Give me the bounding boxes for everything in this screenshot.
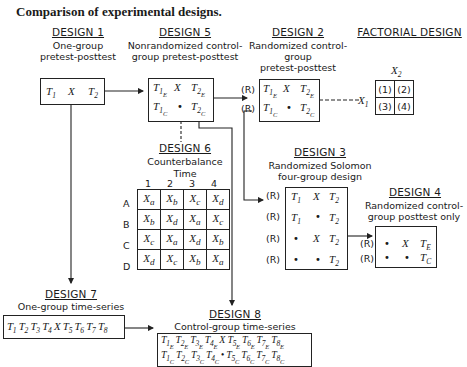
design-2-no-treatment: • [286, 102, 292, 113]
design-5-desc-2: group pretest-posttest [120, 51, 250, 62]
factorial-x1-label: X1 [358, 94, 368, 109]
design-2-desc-1: Randomized control- [245, 40, 351, 51]
design-5-heading: DESIGN 5 [155, 26, 215, 38]
design-3-posttest: T2 [329, 190, 339, 205]
design-2-treatment: X [283, 82, 290, 94]
design-3-random-label: (R) [266, 254, 280, 265]
design-3-desc-2: four-group design [262, 171, 378, 182]
cb-cell: Xb [184, 250, 207, 270]
design-6-col-4: 4 [203, 178, 225, 189]
design-3-no-pretest: • [293, 254, 299, 265]
cb-cell: Xc [184, 190, 207, 210]
design-7-sequence: T1 T2 T3 T4 X T5 T6 T7 T8 [7, 320, 107, 335]
design-4-no-pretest: • [384, 238, 390, 249]
design-6-row-b: B [123, 219, 130, 230]
factorial-grid: (1)(2) (3)(4) [375, 80, 414, 115]
factorial-cell: (3) [376, 98, 395, 115]
design-3-treatment: X [313, 190, 320, 202]
design-1-treatment: X [68, 85, 75, 97]
design-8-control-row: T1C T2C T3C T4C • T5C T6C T7C T8C [161, 349, 284, 365]
factorial-cell: (4) [395, 98, 414, 115]
design-7-box: T1 T2 T3 T4 X T5 T6 T7 T8 [3, 315, 125, 339]
cb-cell: Xa [207, 250, 230, 270]
cb-cell: Xd [207, 190, 230, 210]
design-5-t1e: T1E [153, 81, 167, 98]
design-6-col-3: 3 [181, 178, 203, 189]
design-6-row-d: D [123, 261, 130, 272]
design-2-desc-2: group [245, 51, 351, 62]
design-3-random-label: (R) [266, 211, 280, 222]
cb-cell: Xb [161, 190, 184, 210]
factorial-heading: FACTORIAL DESIGN [352, 26, 467, 38]
design-2-desc-3: pretest-posttest [245, 62, 351, 73]
design-4-no-pretest: • [384, 252, 390, 263]
design-8-box: T1E T2E T3E T4E X T5E T6E T7E T8E T1C T2… [157, 333, 312, 367]
cb-cell: Xd [138, 250, 161, 270]
design-8-experimental-row: T1E T2E T3E T4E X T5E T6E T7E T8E [161, 334, 284, 350]
design-4-random-label: (R) [360, 238, 374, 249]
design-4-no-treatment: • [404, 252, 410, 263]
design-2-t2e: T2E [300, 82, 314, 99]
cb-cell: Xc [207, 210, 230, 230]
design-4-heading: DESIGN 4 [385, 186, 445, 198]
cb-cell: Xb [138, 210, 161, 230]
design-2-t1c: T1C [263, 101, 277, 118]
design-7-heading: DESIGN 7 [41, 288, 101, 300]
design-2-box: T1E X T2E T1C • T2C [259, 79, 320, 122]
cb-cell: Xd [184, 230, 207, 250]
design-3-posttest: T2 [329, 232, 339, 247]
design-1-heading: DESIGN 1 [48, 26, 108, 38]
design-6-heading: DESIGN 6 [155, 142, 215, 154]
design-1-desc-2: pretest-posttest [28, 51, 128, 62]
design-3-pretest: T1 [291, 190, 301, 205]
design-8-desc: Control-group time-series [165, 321, 305, 332]
factorial-cell: (2) [395, 81, 414, 98]
design-8-heading: DESIGN 8 [205, 308, 265, 320]
factorial-x2-label: X2 [391, 64, 401, 79]
design-6-col-1: 1 [137, 178, 159, 189]
design-3-heading: DESIGN 3 [290, 146, 350, 158]
design-4-desc-2: group posttest only [358, 211, 467, 222]
design-2-random-label: (R) [241, 103, 255, 114]
design-5-desc-1: Nonrandomized control- [120, 40, 250, 51]
design-5-t2c: T2C [191, 100, 205, 117]
design-3-no-treatment: • [315, 254, 321, 265]
cb-cell: Xb [207, 230, 230, 250]
design-4-tc: TC [420, 251, 431, 266]
design-6-row-c: C [123, 240, 130, 251]
design-1-desc-1: One-group [28, 40, 128, 51]
factorial-cell: (1) [376, 81, 395, 98]
design-6-col-2: 2 [159, 178, 181, 189]
design-3-no-pretest: • [293, 233, 299, 244]
design-3-random-label: (R) [266, 233, 280, 244]
design-3-desc-1: Randomized Solomon [262, 160, 378, 171]
design-4-treatment: X [402, 237, 409, 249]
design-6-row-a: A [123, 198, 130, 209]
design-3-random-label: (R) [266, 190, 280, 201]
design-4-te: TE [420, 237, 431, 252]
cb-cell: Xd [161, 210, 184, 230]
cb-cell: Xc [161, 250, 184, 270]
design-2-t2c: T2C [300, 101, 314, 118]
design-6-desc: Counterbalance [130, 156, 240, 167]
design-5-t2e: T2E [191, 81, 205, 98]
design-3-pretest: T1 [291, 211, 301, 226]
design-5-t1c: T1C [153, 100, 167, 117]
design-5-treatment: X [174, 81, 181, 93]
design-5-no-treatment: • [177, 101, 183, 112]
design-3-posttest: T2 [329, 253, 339, 268]
design-4-box: • X TE • • TC [375, 226, 437, 268]
design-7-desc: One-group time-series [8, 301, 134, 312]
design-3-no-treatment: • [315, 211, 321, 222]
design-3-treatment: X [313, 232, 320, 244]
cb-cell: Xa [161, 230, 184, 250]
design-4-desc-1: Randomized control- [358, 200, 467, 211]
design-3-box: T1 X T2 T1 • T2 • X T2 • • T2 [285, 187, 348, 270]
design-1-posttest: T2 [88, 85, 98, 100]
design-3-posttest: T2 [329, 211, 339, 226]
cb-cell: Xc [138, 230, 161, 250]
design-1-pretest: T1 [46, 85, 56, 100]
design-2-t1e: T1E [263, 82, 277, 99]
design-2-random-label: (R) [241, 84, 255, 95]
design-4-random-label: (R) [360, 253, 374, 264]
